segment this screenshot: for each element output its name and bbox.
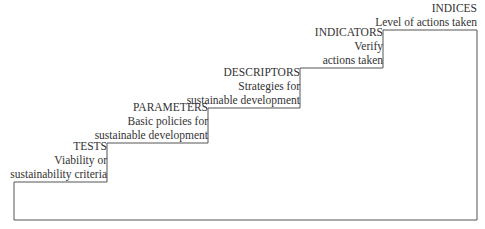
step-title: INDICATORS: [315, 25, 383, 39]
step-title: TESTS: [10, 139, 107, 153]
step-description: sustainable development: [95, 128, 208, 142]
step-description: Basic policies for: [95, 114, 208, 128]
staircase-outline: [0, 0, 485, 229]
step-description: actions taken: [315, 53, 383, 67]
step-indicators: INDICATORS Verify actions taken: [315, 25, 383, 67]
step-tests: TESTS Viability or sustainability criter…: [10, 139, 107, 181]
step-title: DESCRIPTORS: [187, 65, 300, 79]
step-description: sustainability criteria: [10, 167, 107, 181]
step-descriptors: DESCRIPTORS Strategies for sustainable d…: [187, 65, 300, 107]
step-description: sustainable development: [187, 93, 300, 107]
step-description: Strategies for: [187, 79, 300, 93]
step-description: Verify: [315, 39, 383, 53]
step-description: Level of actions taken: [375, 15, 477, 29]
step-indices: INDICES Level of actions taken: [375, 1, 477, 29]
step-title: INDICES: [375, 1, 477, 15]
step-description: Viability or: [10, 153, 107, 167]
